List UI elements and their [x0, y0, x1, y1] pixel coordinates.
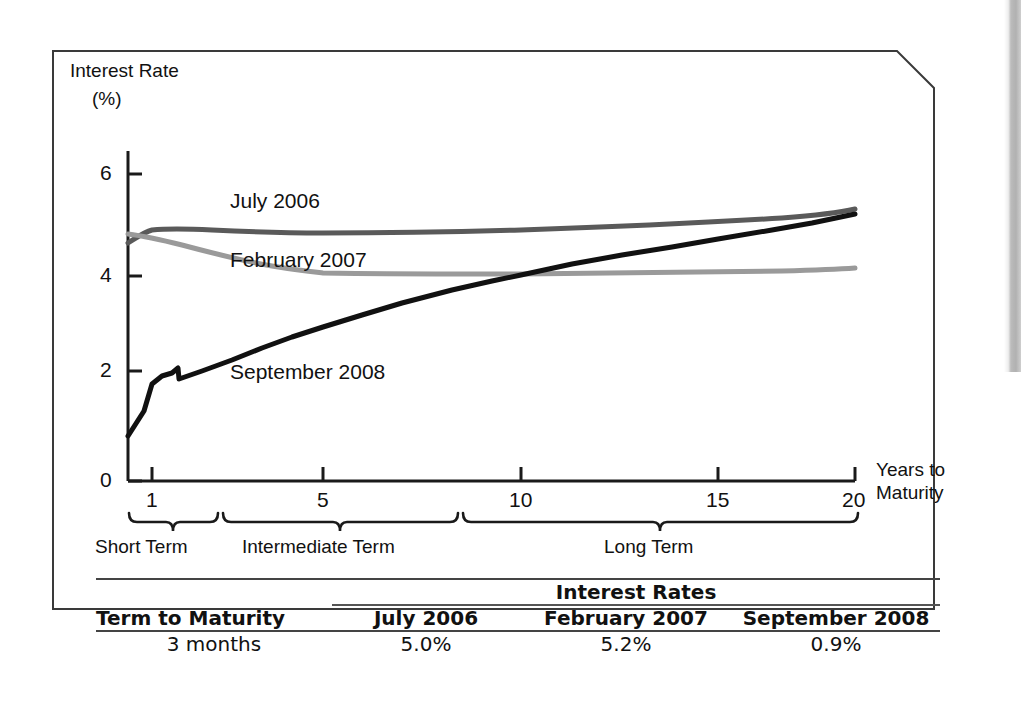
table-header-row: Term to Maturity July 2006 February 2007…	[96, 606, 940, 630]
y-tick-label-6: 6	[100, 161, 112, 185]
table-group-header-row: Interest Rates	[96, 580, 940, 604]
brace-label-short-term: Short Term	[95, 536, 188, 558]
figure-panel: Interest Rate (%) 0 2 4 6 1 5 10 15 20 Y…	[52, 50, 935, 610]
x-tick-label-20: 20	[842, 488, 865, 512]
brace-label-long-term: Long Term	[604, 536, 693, 558]
group-header-spacer	[96, 580, 332, 604]
x-tick-label-15: 15	[706, 488, 729, 512]
y-axis-title-line2: (%)	[92, 88, 122, 110]
cell-july-2006: 5.0%	[332, 632, 520, 656]
figure-frame	[53, 51, 934, 609]
series-line-july-2006	[128, 209, 855, 243]
group-header-interest-rates: Interest Rates	[332, 580, 940, 604]
y-tick-label-2: 2	[100, 358, 112, 382]
y-axis-title-line1: Interest Rate	[70, 60, 179, 82]
column-header-september-2008: September 2008	[732, 606, 940, 630]
series-label-september-2008: September 2008	[230, 360, 385, 384]
cell-term-to-maturity: 3 months	[96, 632, 332, 656]
yield-curve-chart	[52, 50, 935, 610]
cell-september-2008: 0.9%	[732, 632, 940, 656]
cell-february-2007: 5.2%	[520, 632, 732, 656]
y-tick-label-4: 4	[100, 263, 112, 287]
x-tick-label-10: 10	[509, 488, 532, 512]
column-header-july-2006: July 2006	[332, 606, 520, 630]
page-edge-artifact	[1008, 0, 1021, 372]
column-header-february-2007: February 2007	[520, 606, 732, 630]
x-axis-title-line1: Years to	[876, 458, 945, 481]
brace-label-intermediate-term: Intermediate Term	[242, 536, 395, 558]
x-axis-title-line2: Maturity	[876, 481, 944, 504]
series-label-july-2006: July 2006	[230, 189, 320, 213]
interest-rates-table: Interest Rates Term to Maturity July 200…	[96, 578, 940, 656]
column-header-term-to-maturity: Term to Maturity	[96, 606, 332, 630]
series-label-february-2007: February 2007	[230, 248, 367, 272]
table-row: 3 months 5.0% 5.2% 0.9%	[96, 632, 940, 656]
x-tick-label-1: 1	[146, 488, 158, 512]
y-tick-label-0: 0	[100, 468, 112, 492]
x-tick-label-5: 5	[317, 488, 329, 512]
x-axis-ticks	[152, 467, 855, 481]
